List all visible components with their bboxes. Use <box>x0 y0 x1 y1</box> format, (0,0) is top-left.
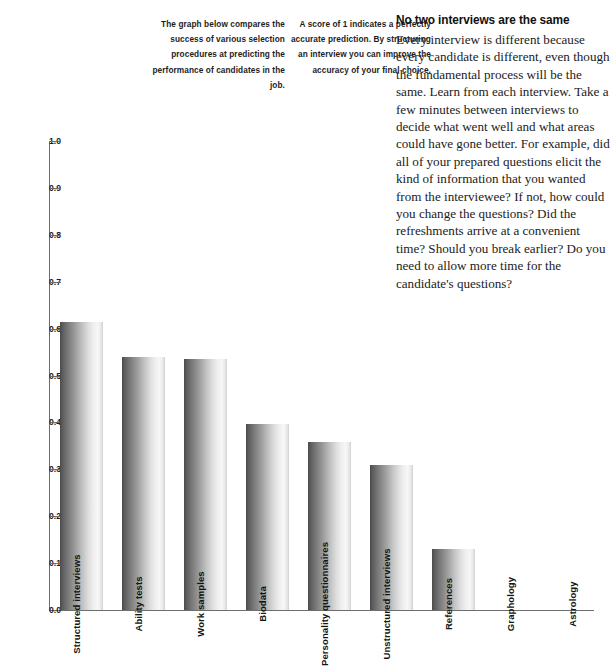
y-tick-mark <box>50 141 61 142</box>
bar-label: Structured interviews <box>72 554 82 653</box>
y-tick-mark <box>50 235 61 236</box>
bar-label: Ability tests <box>134 576 144 631</box>
bar-personality-questionnaires: Personality questionnaires <box>308 442 351 610</box>
bar-label: Unstructured interviews <box>382 548 392 659</box>
bar-label: Personality questionnaires <box>320 542 330 666</box>
bar-label: Biodata <box>258 586 268 622</box>
bar-label: Work samples <box>196 571 206 636</box>
bar-ability-tests: Ability tests <box>122 357 165 610</box>
y-tick-label: 0.0 <box>31 605 61 615</box>
bar-unstructured-interviews: Unstructured interviews <box>370 465 413 610</box>
bar-work-samples: Work samples <box>184 359 227 610</box>
bar-label: References <box>444 578 454 630</box>
bar-biodata: Biodata <box>246 424 289 610</box>
y-tick-mark <box>50 188 61 189</box>
y-tick-mark <box>50 282 61 283</box>
bar-label: Graphology <box>506 577 516 631</box>
bar-label: Astrology <box>568 581 578 626</box>
bar-structured-interviews: Structured interviews <box>60 322 103 610</box>
bar-references: References <box>432 549 475 610</box>
